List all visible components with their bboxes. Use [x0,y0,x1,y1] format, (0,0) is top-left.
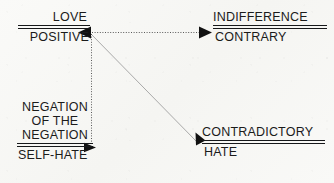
term-numerator-love: LOVE [18,10,90,25]
term-block-love: LOVE POSITIVE [18,10,90,44]
term-denominator-self-hate: SELF-HATE [17,147,93,162]
arrowhead-right-into-indifference [199,27,212,39]
semiotic-square-diagram: LOVE POSITIVE INDIFFERENCE CONTRARY NEGA… [0,0,334,183]
term-numerator-negation-line-2: OF THE [17,114,93,128]
term-numerator-contradictory: CONTRADICTORY [202,125,325,140]
term-block-negation: NEGATION OF THE NEGATION SELF-HATE [17,100,93,162]
connector-diagonal-solid-line [92,35,197,142]
term-denominator-contrary: CONTRARY [213,29,327,44]
term-denominator-hate: HATE [202,144,325,159]
term-numerator-negation-line-1: NEGATION [17,100,93,114]
term-numerator-negation-line-3: NEGATION [17,128,93,143]
term-numerator-indifference: INDIFFERENCE [213,10,327,25]
term-block-indifference: INDIFFERENCE CONTRARY [213,10,327,44]
term-block-contradictory: CONTRADICTORY HATE [202,125,325,159]
term-denominator-positive: POSITIVE [18,29,90,44]
